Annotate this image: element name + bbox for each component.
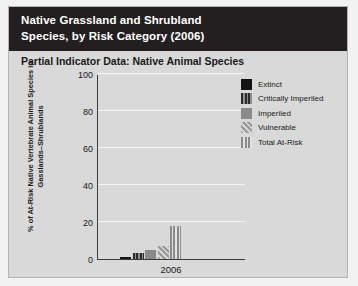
bar-critically-imperiled bbox=[133, 253, 144, 259]
page-title-line2: Species, by Risk Category (2006) bbox=[21, 28, 337, 44]
y-axis-title: % of At-Risk Native Vertebrate Animal Sp… bbox=[26, 59, 45, 235]
page-title-line1: Native Grassland and Shrubland bbox=[21, 12, 337, 28]
legend-item-total-at-risk[interactable]: Total At-Risk bbox=[241, 135, 345, 149]
legend-label: Extinct bbox=[258, 80, 282, 89]
legend-item-extinct[interactable]: Extinct bbox=[241, 77, 345, 91]
bar-imperiled bbox=[145, 250, 156, 259]
x-axis-label: 2006 bbox=[97, 264, 245, 275]
legend-label: Critically Imperiled bbox=[258, 94, 323, 103]
chart-subtitle: Partial Indicator Data: Native Animal Sp… bbox=[21, 55, 244, 67]
chart-title-bar: Native Grassland and Shrubland Species, … bbox=[9, 7, 347, 51]
legend-swatch-vulnerable-icon bbox=[241, 122, 252, 133]
legend-swatch-critically-imperiled-icon bbox=[241, 93, 252, 104]
y-axis-tick-label: 100 bbox=[78, 70, 93, 80]
legend-label: Total At-Risk bbox=[258, 138, 302, 147]
bar-vulnerable bbox=[158, 246, 169, 259]
legend-swatch-extinct-icon bbox=[241, 79, 252, 90]
bar-series-group bbox=[98, 75, 245, 259]
legend-item-critically-imperiled[interactable]: Critically Imperiled bbox=[241, 92, 345, 106]
gridline bbox=[98, 73, 245, 74]
y-axis-tick-label: 20 bbox=[83, 218, 93, 228]
y-axis-tick-label: 60 bbox=[83, 144, 93, 154]
bar-extinct bbox=[120, 257, 131, 259]
legend-label: Imperiled bbox=[258, 109, 291, 118]
y-axis-tick-label: 0 bbox=[88, 255, 93, 265]
chart-figure: Native Grassland and Shrubland Species, … bbox=[8, 6, 348, 278]
y-axis-tick-label: 80 bbox=[83, 107, 93, 117]
y-axis-ticks: 020406080100 bbox=[53, 71, 97, 261]
chart-legend: ExtinctCritically ImperiledImperiledVuln… bbox=[241, 77, 345, 150]
legend-swatch-imperiled-icon bbox=[241, 108, 252, 119]
legend-item-imperiled[interactable]: Imperiled bbox=[241, 106, 345, 120]
legend-label: Vulnerable bbox=[258, 123, 296, 132]
y-axis-tick-label: 40 bbox=[83, 181, 93, 191]
bar-total-at-risk bbox=[170, 226, 181, 259]
axes bbox=[97, 75, 245, 260]
legend-swatch-total-at-risk-icon bbox=[241, 137, 252, 148]
legend-item-vulnerable[interactable]: Vulnerable bbox=[241, 121, 345, 135]
